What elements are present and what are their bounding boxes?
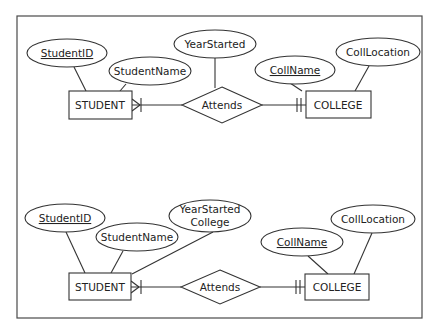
attribute-label: CollLocation <box>346 46 410 58</box>
attribute-yearstarted-college: YearStarted College <box>169 200 251 232</box>
er-diagram-canvas: StudentID StudentName YearStarted CollNa… <box>0 0 438 335</box>
attribute-label-line2: College <box>190 216 229 228</box>
attribute-studentname: StudentName <box>109 57 191 85</box>
relationship-label: Attends <box>200 281 240 293</box>
attribute-collname: CollName <box>255 56 335 84</box>
attribute-label: StudentName <box>101 231 173 243</box>
entity-label: COLLEGE <box>313 281 362 293</box>
attribute-label: StudentName <box>114 65 186 77</box>
attribute-studentid: StudentID <box>25 204 105 232</box>
attribute-yearstarted: YearStarted <box>174 30 256 58</box>
entity-student: STUDENT <box>69 273 131 300</box>
attribute-label: CollName <box>270 64 321 76</box>
attribute-label: StudentID <box>39 212 92 224</box>
attribute-label: CollName <box>277 236 328 248</box>
attribute-colllocation: CollLocation <box>331 205 415 233</box>
entity-college: COLLEGE <box>306 91 371 118</box>
attribute-label: StudentID <box>41 47 94 59</box>
attribute-collname: CollName <box>261 228 343 256</box>
entity-label: STUDENT <box>75 281 125 293</box>
relationship-label: Attends <box>202 99 242 111</box>
attribute-label-line1: YearStarted <box>178 203 240 215</box>
entity-label: STUDENT <box>75 99 125 111</box>
attribute-colllocation: CollLocation <box>336 38 420 66</box>
entity-college: COLLEGE <box>305 274 369 300</box>
attribute-studentid: StudentID <box>27 39 107 67</box>
attribute-label: YearStarted <box>183 38 245 50</box>
entity-student: STUDENT <box>69 91 132 119</box>
attribute-label: CollLocation <box>341 213 405 225</box>
attribute-studentname: StudentName <box>96 223 178 251</box>
entity-label: COLLEGE <box>314 99 363 111</box>
